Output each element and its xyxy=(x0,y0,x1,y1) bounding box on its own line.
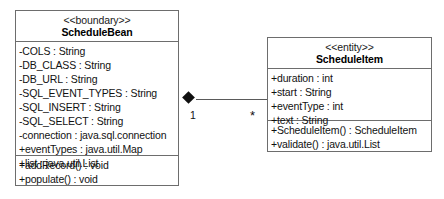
class-operation: +ScheduleItem() : ScheduleItem xyxy=(268,123,431,137)
class-attribute: -DB_CLASS : String xyxy=(16,58,178,72)
class-operation: +populate() : void xyxy=(16,172,178,186)
class-attribute: -connection : java.sql.connection xyxy=(16,128,178,142)
class-attribute: -COLS : String xyxy=(16,44,178,58)
class-name: ScheduleBean xyxy=(18,26,176,38)
uml-class-schedule-item[interactable]: <<entity>> ScheduleItem +duration : int … xyxy=(267,37,432,152)
class-attribute: -SQL_SELECT : String xyxy=(16,114,178,128)
uml-class-schedule-bean[interactable]: <<boundary>> ScheduleBean -COLS : String… xyxy=(15,10,179,186)
class-attribute: -SQL_EVENT_TYPES : String xyxy=(16,86,178,100)
class-attribute: +duration : int xyxy=(268,71,431,85)
composition-diamond-icon xyxy=(182,91,195,104)
class-attribute: +eventTypes : java.util.Map xyxy=(16,142,178,156)
class-name: ScheduleItem xyxy=(270,53,429,65)
class-stereotype: <<boundary>> xyxy=(18,14,176,26)
class-attribute: -SQL_INSERT : String xyxy=(16,100,178,114)
uml-class-diagram-canvas: <<boundary>> ScheduleBean -COLS : String… xyxy=(0,0,444,199)
class-header-schedule-item: <<entity>> ScheduleItem xyxy=(268,38,431,69)
class-attribute: -DB_URL : String xyxy=(16,72,178,86)
attributes-compartment-schedule-item: +duration : int +start : String +eventTy… xyxy=(268,69,431,120)
composition-line xyxy=(196,99,267,100)
class-header-schedule-bean: <<boundary>> ScheduleBean xyxy=(16,11,178,42)
class-attribute: +eventType : int xyxy=(268,99,431,113)
source-multiplicity-label: 1 xyxy=(190,110,196,121)
class-attribute: +start : String xyxy=(268,85,431,99)
class-operation: +validate() : java.util.List xyxy=(268,137,431,151)
target-multiplicity-label: * xyxy=(250,110,255,121)
attributes-compartment-schedule-bean: -COLS : String -DB_CLASS : String -DB_UR… xyxy=(16,42,178,155)
operations-compartment-schedule-item: +ScheduleItem() : ScheduleItem +validate… xyxy=(268,120,431,152)
class-stereotype: <<entity>> xyxy=(270,41,429,53)
class-operation: +addRecord() : void xyxy=(16,158,178,172)
operations-compartment-schedule-bean: +addRecord() : void +populate() : void xyxy=(16,155,178,187)
